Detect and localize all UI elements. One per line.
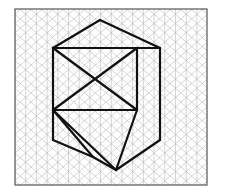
isometric-figure-svg [0, 0, 226, 195]
figure-canvas [0, 0, 226, 195]
